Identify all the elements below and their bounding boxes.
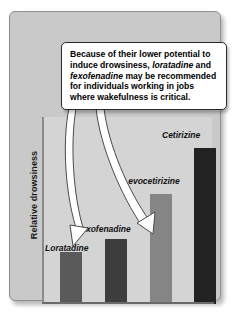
arrow-1-head <box>70 225 88 246</box>
callout-emphasis-loratadine: loratadine <box>152 60 193 70</box>
callout-text-2: and <box>193 60 211 70</box>
figure-panel: Relative drowsiness Loratadine Fexofenad… <box>9 11 221 301</box>
callout-emphasis-fexofenadine: fexofenadine <box>70 71 123 81</box>
callout-box: Because of their lower potential to indu… <box>61 42 227 110</box>
arrow-2-shaft <box>96 108 149 226</box>
antihistamine-drowsiness-figure: Relative drowsiness Loratadine Fexofenad… <box>0 0 235 324</box>
arrow-1-shaft <box>65 108 84 234</box>
callout-text: Because of their lower potential to indu… <box>70 49 219 103</box>
